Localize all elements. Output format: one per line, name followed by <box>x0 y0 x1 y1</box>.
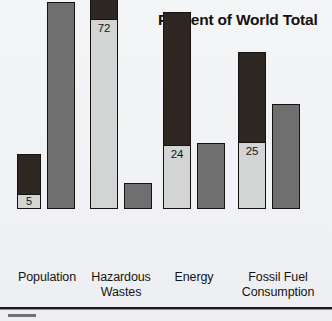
bar-energy-dark: 75 24 <box>163 12 191 209</box>
bar-population-gray: 79 <box>47 2 75 209</box>
bar-energy-gray: 25 <box>197 143 225 209</box>
bar-inner-segment: 25 <box>239 142 265 208</box>
category-label-line1: Fossil Fuel <box>228 270 328 285</box>
bar-population-dark: 21 5 <box>17 154 41 209</box>
category-label-line2: Consumption <box>228 285 328 300</box>
chart-container: Percent of World Total 21 5 79 90 72 10 … <box>0 0 332 321</box>
bar-inner-segment: 5 <box>18 194 40 208</box>
bar-fossil-fuel-gray: 40 <box>272 104 300 209</box>
bar-inner-value-label: 25 <box>246 143 259 158</box>
bar-hazardous-wastes-gray: 10 <box>124 183 152 209</box>
plot-area: 21 5 79 90 72 10 75 24 25 <box>0 0 332 266</box>
bar-inner-value-label: 24 <box>171 146 184 161</box>
category-label-line2: Wastes <box>80 285 162 300</box>
bar-hazardous-wastes-dark: 90 72 <box>90 0 118 209</box>
bar-inner-segment: 24 <box>164 145 190 208</box>
category-label-population: Population <box>6 270 88 285</box>
footer-divider-thin <box>0 309 332 310</box>
bar-inner-value-label: 5 <box>26 195 32 208</box>
footer-mark <box>8 314 36 317</box>
category-label-fossil-fuel-consumption: Fossil Fuel Consumption <box>228 270 328 300</box>
bar-fossil-fuel-dark: 60 25 <box>238 52 266 209</box>
category-label-energy: Energy <box>156 270 232 285</box>
bar-inner-value-label: 72 <box>98 20 111 35</box>
bar-inner-segment: 72 <box>91 19 117 208</box>
category-label-line1: Population <box>6 270 88 285</box>
category-label-hazardous-wastes: Hazardous Wastes <box>80 270 162 300</box>
category-label-line1: Energy <box>156 270 232 285</box>
category-label-line1: Hazardous <box>80 270 162 285</box>
